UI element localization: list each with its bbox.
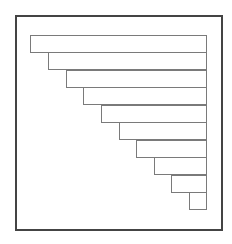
stair-bar	[66, 70, 207, 88]
stair-bar	[119, 122, 207, 140]
stair-bar	[171, 175, 207, 193]
stair-bar	[83, 87, 207, 105]
stair-bar	[136, 140, 207, 158]
stair-bar	[48, 52, 207, 70]
stair-bar	[101, 105, 207, 123]
stair-bar	[154, 157, 207, 175]
stair-bar	[189, 192, 207, 210]
stair-bar	[30, 35, 207, 53]
